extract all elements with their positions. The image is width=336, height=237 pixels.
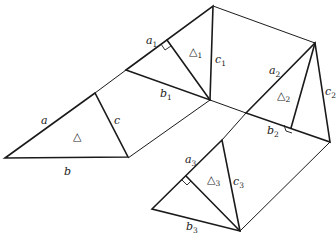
geometry-diagram: a c b △ a1 b1 c1 △1 a2 b2 c2 △2 a3 b3 c3… — [0, 0, 336, 237]
connector-t2-left-to-t3-top — [222, 113, 246, 140]
triangle-2-outline — [246, 43, 330, 142]
t1-label-c: c1 — [215, 53, 226, 68]
main-label-a: a — [41, 114, 48, 127]
t3-label-a: a3 — [185, 153, 197, 168]
triangle-2: a2 b2 c2 △2 — [246, 43, 336, 142]
connector-t1-bottom-to-t2-left — [210, 100, 246, 113]
main-area-label: △ — [73, 130, 82, 143]
connector-main-top-to-t1-left — [95, 70, 126, 93]
connector-t2-right-to-t3-bottom — [240, 142, 330, 231]
t2-label-b: b2 — [267, 124, 279, 139]
t2-label-a: a2 — [269, 64, 281, 79]
t3-label-c: c3 — [233, 175, 244, 190]
t2-area-label: △2 — [277, 89, 290, 104]
triangle-1: a1 b1 c1 △1 — [126, 6, 226, 102]
main-triangle: a c b △ — [5, 93, 128, 178]
t2-label-c: c2 — [325, 85, 336, 100]
t1-label-b: b1 — [160, 87, 172, 102]
t1-area-label: △1 — [189, 45, 202, 60]
connector-t1-top-to-t2-top — [213, 6, 315, 43]
main-triangle-outline — [5, 93, 128, 158]
main-label-b: b — [64, 165, 71, 178]
t1-label-a: a1 — [146, 34, 157, 49]
triangle-1-right-angle-marker — [161, 44, 171, 50]
t3-label-b: b3 — [186, 220, 198, 235]
triangle-3: a3 b3 c3 △3 — [152, 140, 244, 235]
t3-area-label: △3 — [207, 173, 220, 188]
main-label-c: c — [114, 114, 120, 127]
connector-main-right-to-t1-bottom — [128, 100, 210, 158]
